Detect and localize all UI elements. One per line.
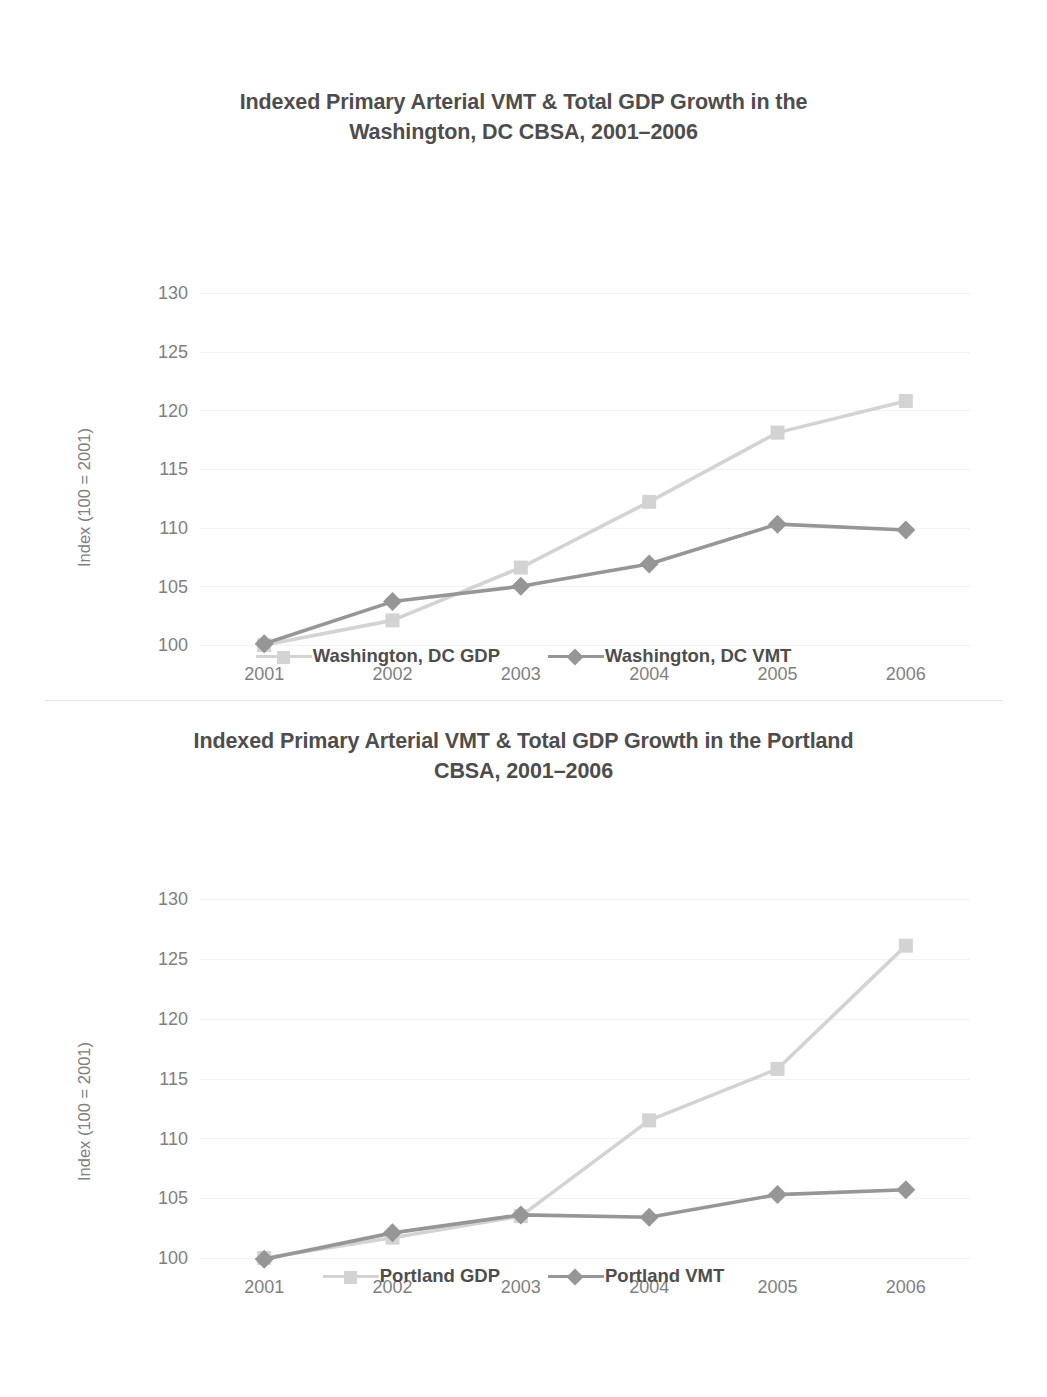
legend-entry[interactable]: Portland VMT <box>548 1265 724 1287</box>
data-point-square <box>771 1062 785 1076</box>
chart-title-line-1: Indexed Primary Arterial VMT & Total GDP… <box>240 90 808 114</box>
series-line <box>264 946 906 1258</box>
legend-marker-swatch <box>344 1271 357 1284</box>
chart-title-portland: Indexed Primary Arterial VMT & Total GDP… <box>45 705 1002 786</box>
data-point-diamond <box>640 1208 659 1227</box>
legend-label: Portland GDP <box>380 1265 500 1287</box>
data-point-square <box>899 939 913 953</box>
data-point-diamond <box>511 577 530 596</box>
gridline <box>200 1258 970 1259</box>
legend-square-marker-icon <box>256 648 312 664</box>
chart-title-line-1: Indexed Primary Arterial VMT & Total GDP… <box>194 729 854 753</box>
chart-title-line-2: Washington, DC CBSA, 2001–2006 <box>349 120 698 144</box>
data-point-square <box>386 614 400 628</box>
legend-entry[interactable]: Washington, DC VMT <box>548 645 791 667</box>
plot-area-portland: Index (100 = 2001) 100105110115120125130… <box>45 786 1002 1246</box>
data-point-diamond <box>640 555 659 574</box>
x-tick-label: 2004 <box>629 665 669 683</box>
data-point-square <box>642 1114 656 1128</box>
data-point-square <box>642 495 656 509</box>
series-line <box>264 401 906 645</box>
legend-entry[interactable]: Portland GDP <box>323 1265 500 1287</box>
legend-marker-swatch <box>277 651 290 664</box>
legend-label: Washington, DC GDP <box>313 645 500 667</box>
legend-marker-swatch <box>567 1269 584 1286</box>
legend-diamond-marker-icon <box>548 1268 604 1284</box>
legend-marker-swatch <box>567 649 584 666</box>
x-tick-label: 2005 <box>757 665 797 683</box>
chart-title-washington-dc: Indexed Primary Arterial VMT & Total GDP… <box>45 60 1002 147</box>
x-tick-label: 2001 <box>244 665 284 683</box>
chart-portland: Indexed Primary Arterial VMT & Total GDP… <box>45 705 1002 1350</box>
data-point-diamond <box>768 1185 787 1204</box>
plot-area-washington-dc: Index (100 = 2001) 100105110115120125130… <box>45 147 1002 617</box>
series-plot-portland <box>45 786 1002 1246</box>
data-point-diamond <box>768 515 787 534</box>
data-point-square <box>899 394 913 408</box>
data-point-diamond <box>383 592 402 611</box>
section-divider <box>45 700 1002 701</box>
data-point-square <box>771 426 785 440</box>
legend-diamond-marker-icon <box>548 648 604 664</box>
data-point-diamond <box>896 521 915 540</box>
legend-square-marker-icon <box>323 1268 379 1284</box>
legend-washington-dc: Washington, DC GDPWashington, DC VMT <box>45 645 1002 667</box>
legend-label: Washington, DC VMT <box>605 645 791 667</box>
chart-washington-dc: Indexed Primary Arterial VMT & Total GDP… <box>45 60 1002 690</box>
series-plot-washington-dc <box>45 147 1002 617</box>
legend-entry[interactable]: Washington, DC GDP <box>256 645 500 667</box>
legend-label: Portland VMT <box>605 1265 724 1287</box>
x-tick-label: 2002 <box>372 665 412 683</box>
data-point-diamond <box>896 1181 915 1200</box>
x-tick-label: 2006 <box>886 665 926 683</box>
data-point-square <box>514 561 528 575</box>
chart-title-line-2: CBSA, 2001–2006 <box>434 759 613 783</box>
legend-portland: Portland GDPPortland VMT <box>45 1265 1002 1287</box>
x-tick-label: 2003 <box>501 665 541 683</box>
series-line <box>264 1190 906 1259</box>
page-root: Indexed Primary Arterial VMT & Total GDP… <box>0 0 1047 1397</box>
